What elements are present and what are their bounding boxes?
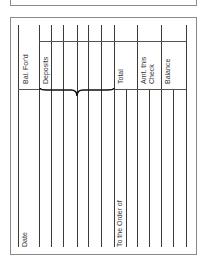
- column-line: [137, 25, 138, 247]
- column-line: [101, 25, 102, 247]
- column-line: [126, 89, 127, 247]
- label-total: Total: [117, 69, 125, 84]
- top-stub-box: [10, 0, 197, 6]
- column-line: [161, 25, 162, 247]
- label-date: Date: [21, 232, 29, 247]
- header-top-line: [39, 41, 187, 42]
- label-check: Check: [148, 64, 156, 84]
- label-bal-fwd: Bal. For'd: [22, 54, 30, 84]
- column-line: [63, 25, 64, 247]
- column-line: [114, 25, 115, 247]
- header-bottom-line-balfwd: [18, 89, 39, 90]
- label-to-the-order-of: To the Order of: [116, 200, 124, 247]
- brace-icon: [39, 84, 115, 98]
- column-line: [51, 25, 52, 247]
- label-deposits: Deposits: [42, 57, 50, 84]
- column-line: [39, 25, 40, 247]
- column-line: [18, 25, 19, 247]
- column-line: [88, 25, 89, 247]
- column-line: [77, 25, 78, 247]
- label-amt-this: Amt. this: [140, 57, 148, 84]
- column-line: [149, 89, 150, 247]
- label-balance: Balance: [164, 59, 172, 84]
- header-bottom-line-right: [114, 89, 186, 90]
- column-line: [186, 25, 187, 247]
- column-line: [173, 89, 174, 247]
